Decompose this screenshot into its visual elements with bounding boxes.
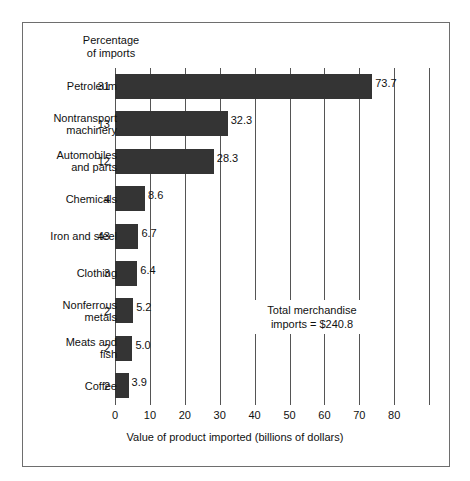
- bar: [115, 111, 228, 136]
- percentage-value: 2: [88, 292, 110, 329]
- percentage-value: 43: [88, 218, 110, 255]
- percentage-value: 13: [88, 105, 110, 142]
- percentage-value: 3: [88, 255, 110, 292]
- percentage-of-imports-header: Percentage of imports: [56, 34, 166, 60]
- bar: [115, 186, 145, 211]
- bar: [115, 149, 214, 174]
- bar-value-label: 28.3: [214, 152, 238, 164]
- percentage-value: 4: [88, 180, 110, 217]
- bar-value-label: 32.3: [228, 114, 252, 126]
- bar-row: 8.6: [115, 180, 470, 217]
- bar: [115, 74, 372, 99]
- percentage-value: 2: [88, 330, 110, 367]
- percentage-value: 12: [88, 143, 110, 180]
- bar: [115, 373, 129, 398]
- bar-value-label: 5.2: [133, 301, 151, 313]
- bar-row: 28.3: [115, 143, 470, 180]
- x-tick-label-10: 10: [135, 409, 165, 422]
- x-tick-label-60: 60: [309, 409, 339, 422]
- x-axis-title: Value of product imported (billions of d…: [22, 430, 448, 444]
- bar-value-label: 5.0: [132, 339, 150, 351]
- percentage-value: 2: [88, 367, 110, 404]
- bars-group: 73.732.328.38.66.76.45.25.03.9: [115, 68, 470, 405]
- x-tick-label-20: 20: [170, 409, 200, 422]
- total-imports-annotation: Total merchandise imports = $240.8: [248, 300, 376, 334]
- bar-value-label: 3.9: [129, 376, 147, 388]
- bar-row: 32.3: [115, 105, 470, 142]
- bar: [115, 336, 132, 361]
- bar-row: 5.0: [115, 330, 470, 367]
- x-tick-label-70: 70: [344, 409, 374, 422]
- bar-value-label: 6.4: [137, 264, 155, 276]
- bar: [115, 261, 137, 286]
- bar-value-label: 8.6: [145, 189, 163, 201]
- x-tick-label-30: 30: [205, 409, 235, 422]
- import-bar-chart-figure: Percentage of imports 73.732.328.38.66.7…: [0, 0, 470, 481]
- percentage-value: 31: [88, 68, 110, 105]
- bar-value-label: 73.7: [372, 77, 396, 89]
- bar-row: 73.7: [115, 68, 470, 105]
- bar: [115, 224, 138, 249]
- bar: [115, 298, 133, 323]
- x-tick-label-40: 40: [240, 409, 270, 422]
- x-tick-label-80: 80: [379, 409, 409, 422]
- bar-row: 6.4: [115, 255, 470, 292]
- plot-area: 73.732.328.38.66.76.45.25.03.9: [115, 68, 430, 405]
- x-tick-label-0: 0: [100, 409, 130, 422]
- bar-row: 6.7: [115, 218, 470, 255]
- bar-row: 3.9: [115, 367, 470, 404]
- bar-value-label: 6.7: [138, 227, 156, 239]
- x-tick-label-50: 50: [275, 409, 305, 422]
